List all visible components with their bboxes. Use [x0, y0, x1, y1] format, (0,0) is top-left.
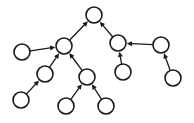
graph-canvas — [0, 0, 194, 123]
graph-edge-n11-to-n7 — [166, 58, 170, 70]
arrowhead-icon-n4-to-n1 — [54, 53, 59, 59]
graph-edge-n3-to-n1 — [31, 48, 51, 51]
edge-layer — [27, 21, 170, 99]
graph-node-n8 — [13, 92, 29, 108]
arrowhead-icon-n6-to-n2 — [118, 52, 123, 58]
graph-edge-n2-to-n0 — [103, 26, 112, 37]
graph-edge-n5-to-n1 — [72, 57, 82, 70]
directed-graph-figure — [0, 0, 194, 123]
graph-edge-n8-to-n4 — [27, 84, 36, 93]
graph-edge-n10-to-n5 — [95, 89, 102, 99]
arrowhead-icon-n7-to-n2 — [127, 41, 132, 46]
graph-edge-n7-to-n2 — [132, 44, 152, 45]
graph-node-n10 — [98, 98, 114, 114]
graph-node-n5 — [79, 69, 95, 85]
arrowhead-icon-n11-to-n7 — [163, 53, 168, 59]
graph-node-n0 — [86, 7, 102, 23]
arrowhead-icon-n3-to-n1 — [50, 46, 56, 51]
graph-edge-n9-to-n5 — [71, 88, 79, 99]
graph-edge-n6-to-n2 — [120, 57, 121, 64]
graph-node-n9 — [58, 98, 74, 114]
arrowhead-icon-n9-to-n5 — [77, 84, 82, 90]
graph-node-n4 — [37, 66, 53, 82]
graph-node-n1 — [56, 38, 72, 54]
graph-node-n2 — [110, 35, 126, 51]
graph-node-n7 — [153, 37, 169, 53]
graph-node-n3 — [14, 44, 30, 60]
node-layer — [13, 7, 181, 114]
graph-node-n6 — [115, 64, 131, 80]
graph-edge-n1-to-n0 — [70, 25, 84, 40]
graph-node-n11 — [165, 70, 181, 86]
graph-edge-n4-to-n1 — [50, 58, 56, 67]
